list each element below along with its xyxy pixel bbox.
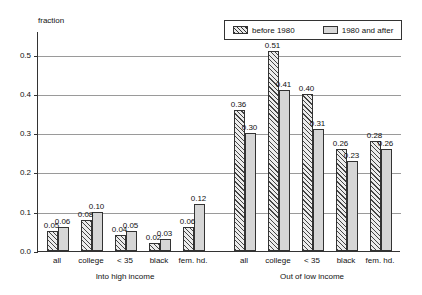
legend-swatch-hatch-icon xyxy=(233,26,248,34)
bar-value-label: 0.30 xyxy=(239,123,261,132)
y-axis-tick xyxy=(34,95,38,96)
gridline xyxy=(38,134,401,135)
bar xyxy=(126,231,137,251)
y-axis-tick xyxy=(34,173,38,174)
bar-value-label: 0.12 xyxy=(188,194,210,203)
x-axis-category-label: fem. hd. xyxy=(358,256,402,265)
bar xyxy=(302,94,313,251)
x-axis-category-label: fem. hd. xyxy=(171,256,215,265)
legend-label-1980-and-after: 1980 and after xyxy=(342,26,394,35)
legend-swatch-solid-icon xyxy=(323,26,338,34)
y-axis-tick xyxy=(34,252,38,253)
bar-value-label: 0.26 xyxy=(330,139,352,148)
bar-value-label: 0.23 xyxy=(341,151,363,160)
bar xyxy=(370,141,381,251)
bar-value-label: 0.51 xyxy=(262,41,284,50)
y-axis-title: fraction xyxy=(38,16,64,25)
bar xyxy=(81,220,92,251)
bar xyxy=(313,129,324,251)
bar-chart: fraction before 1980 1980 and after 0.00… xyxy=(0,0,422,295)
legend-item-1980-and-after: 1980 and after xyxy=(323,26,394,35)
bar-value-label: 0.41 xyxy=(273,80,295,89)
panel-title: Into high income xyxy=(55,272,195,281)
y-axis-tick xyxy=(34,213,38,214)
bar-value-label: 0.05 xyxy=(120,221,142,230)
chart-legend: before 1980 1980 and after xyxy=(224,20,402,40)
y-axis-tick-label: 0.0 xyxy=(5,247,31,256)
bar-value-label: 0.03 xyxy=(154,229,176,238)
bar xyxy=(58,227,69,251)
legend-label-before-1980: before 1980 xyxy=(252,26,295,35)
y-axis-tick-label: 0.5 xyxy=(5,51,31,60)
y-axis-tick-label: 0.1 xyxy=(5,208,31,217)
bar-value-label: 0.31 xyxy=(307,119,329,128)
bar-value-label: 0.06 xyxy=(177,217,199,226)
gridline xyxy=(38,95,401,96)
bar xyxy=(279,90,290,251)
y-axis-tick-label: 0.3 xyxy=(5,129,31,138)
bar-value-label: 0.40 xyxy=(296,84,318,93)
bar xyxy=(381,149,392,251)
bar xyxy=(47,231,58,251)
y-axis-tick-label: 0.4 xyxy=(5,90,31,99)
legend-item-before-1980: before 1980 xyxy=(233,26,295,35)
bar xyxy=(336,149,347,251)
panel-title: Out of low income xyxy=(242,272,382,281)
bar xyxy=(183,227,194,251)
bar-value-label: 0.08 xyxy=(75,210,97,219)
bar-value-label: 0.26 xyxy=(375,139,397,148)
bar-value-label: 0.10 xyxy=(86,202,108,211)
y-axis-tick xyxy=(34,134,38,135)
bar xyxy=(347,161,358,251)
bar xyxy=(115,235,126,251)
bar xyxy=(245,133,256,251)
y-axis-tick xyxy=(34,56,38,57)
y-axis-tick-label: 0.2 xyxy=(5,168,31,177)
bar xyxy=(194,204,205,251)
bar-value-label: 0.06 xyxy=(52,217,74,226)
gridline xyxy=(38,56,401,57)
bar xyxy=(149,243,160,251)
bar-value-label: 0.36 xyxy=(228,100,250,109)
